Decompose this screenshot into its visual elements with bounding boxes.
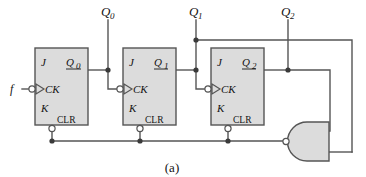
pin-label-k: K [128,102,137,114]
output-label-q0-subscript: 0 [110,11,115,21]
output-label-q: Q [154,56,162,68]
junction-clr-0 [49,138,54,143]
clr-bubble-icon [49,125,55,131]
pin-label-ck: CK [45,83,60,95]
circuit-diagram: J Q 0 CK K CLR J Q 1 CK K CLR J Q 2 CK K… [0,0,366,177]
pin-label-ck: CK [221,83,236,95]
junction-q1-feedback [193,37,198,42]
output-label-q: Q [242,56,250,68]
pin-label-ck: CK [133,83,148,95]
and-gate-output-bubble-icon [283,138,289,144]
junction-q2 [285,67,290,72]
and-gate-body [288,122,330,161]
output-label-q-subscript: 0 [76,61,81,71]
clock-input-label: f [10,82,15,96]
pin-label-clr: CLR [233,115,252,125]
flipflop-q0[interactable]: J Q 0 CK K CLR [29,48,88,132]
flipflop-q2[interactable]: J Q 2 CK K CLR [205,48,264,132]
junction-q1 [193,67,198,72]
clr-bubble-icon [225,125,231,131]
output-labels: Q 0 Q 1 Q 2 [101,4,295,21]
output-label-q-subscript: 2 [252,61,257,71]
flipflop-q1[interactable]: J Q 1 CK K CLR [117,48,176,132]
output-label-q-subscript: 1 [164,61,169,71]
pin-label-k: K [216,102,225,114]
junction-clr-1 [137,138,142,143]
output-label-q: Q [66,56,74,68]
pin-label-clr: CLR [145,115,164,125]
output-label-q1-subscript: 1 [198,11,203,21]
output-label-q2-subscript: 2 [290,11,295,21]
junction-q0 [105,67,110,72]
junction-clr-2 [225,138,230,143]
inverter-bubble-icon [117,86,123,92]
pin-label-k: K [40,102,49,114]
figure-caption: (a) [165,160,179,175]
and-gate[interactable] [283,122,329,161]
inverter-bubble-icon [205,86,211,92]
inverter-bubble-icon [29,86,35,92]
pin-label-clr: CLR [57,115,76,125]
clr-bubble-icon [137,125,143,131]
